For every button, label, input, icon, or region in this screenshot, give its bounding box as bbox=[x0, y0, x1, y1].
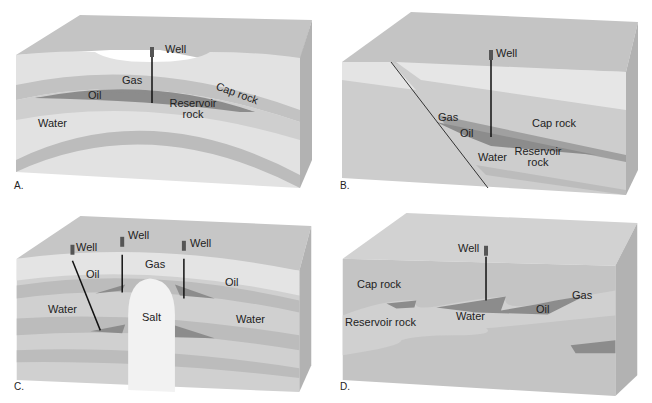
label-well: Well bbox=[458, 243, 479, 254]
label-salt: Salt bbox=[142, 312, 161, 323]
panel-caption: C. bbox=[14, 381, 24, 392]
label-water-right: Water bbox=[236, 314, 265, 325]
panel-d-stratigraphic-trap: Well Cap rock Reservoir rock Water Oil G… bbox=[326, 201, 652, 402]
label-well-3: Well bbox=[190, 238, 211, 249]
label-water: Water bbox=[456, 311, 485, 322]
fault-trap-diagram bbox=[326, 0, 652, 201]
label-oil-right: Oil bbox=[225, 277, 238, 288]
label-gas: Gas bbox=[145, 259, 165, 270]
panel-b-fault-trap: Well Gas Oil Cap rock Reservoir rock Wat… bbox=[326, 0, 652, 201]
label-oil: Oil bbox=[460, 128, 473, 139]
panel-caption: D. bbox=[340, 381, 350, 392]
label-oil: Oil bbox=[536, 304, 549, 315]
anticline-diagram bbox=[0, 0, 326, 201]
label-gas: Gas bbox=[572, 290, 592, 301]
label-oil-left: Oil bbox=[86, 269, 99, 280]
label-oil: Oil bbox=[88, 90, 101, 101]
panel-caption: A. bbox=[14, 180, 23, 191]
label-water: Water bbox=[478, 152, 507, 163]
stratigraphic-trap-diagram bbox=[326, 201, 652, 402]
label-reservoir-rock: Reservoir rock bbox=[168, 98, 218, 120]
label-cap-rock: Cap rock bbox=[532, 118, 576, 129]
panel-c-salt-dome: Well Well Well Gas Oil Oil Water Water S… bbox=[0, 201, 326, 402]
label-cap-rock: Cap rock bbox=[357, 279, 401, 290]
label-reservoir-rock: Reservoir rock bbox=[512, 146, 564, 168]
panel-a-anticline: Well Gas Oil Cap rock Reservoir rock Wat… bbox=[0, 0, 326, 201]
label-water: Water bbox=[38, 118, 67, 129]
label-water-left: Water bbox=[48, 304, 77, 315]
label-well: Well bbox=[496, 48, 517, 59]
label-gas: Gas bbox=[122, 75, 142, 86]
label-well: Well bbox=[165, 44, 186, 55]
salt-dome-diagram bbox=[0, 201, 326, 402]
label-reservoir-rock: Reservoir rock bbox=[345, 317, 416, 328]
label-gas: Gas bbox=[438, 112, 458, 123]
label-well-2: Well bbox=[128, 230, 149, 241]
label-well-1: Well bbox=[76, 242, 97, 253]
panel-caption: B. bbox=[340, 180, 349, 191]
